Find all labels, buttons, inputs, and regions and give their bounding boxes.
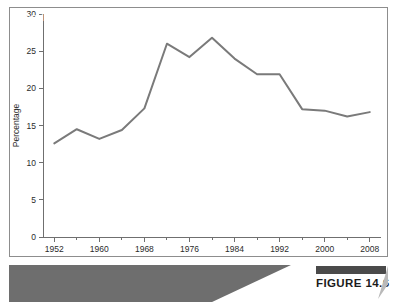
x-tick-label: 1984 (225, 244, 244, 254)
y-tick-label: 20 (27, 83, 37, 93)
chart-plot-area: 0510152025301952196019681976198419922000… (0, 0, 397, 304)
x-tick-label: 1976 (180, 244, 199, 254)
figure-caption: Trend in Split-Ticket Voting, 1952–2008 (14, 11, 218, 23)
x-tick-label: 1952 (45, 244, 64, 254)
y-tick-label: 0 (31, 232, 36, 242)
figure-number-badge: FIGURE 14.6 (316, 266, 388, 299)
badge-decorative-bar (316, 266, 386, 274)
data-series-line (54, 38, 369, 144)
y-tick-label: 15 (27, 121, 37, 131)
line-chart: 0510152025301952196019681976198419922000… (0, 0, 397, 304)
y-axis-title: Percentage (11, 103, 21, 147)
figure-number-label: FIGURE 14.6 (316, 277, 386, 289)
x-tick-label: 2000 (315, 244, 334, 254)
y-tick-label: 25 (27, 46, 37, 56)
x-tick-label: 1960 (90, 244, 109, 254)
x-tick-label: 1992 (270, 244, 289, 254)
y-tick-label: 5 (31, 195, 36, 205)
x-tick-label: 1968 (135, 244, 154, 254)
x-tick-label: 2008 (360, 244, 379, 254)
y-tick-label: 10 (27, 158, 37, 168)
